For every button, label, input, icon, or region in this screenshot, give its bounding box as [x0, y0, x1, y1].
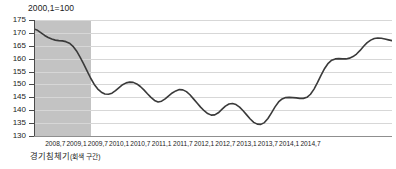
gridline — [34, 46, 392, 47]
x-axis-tick-label: 2009,7 — [88, 140, 108, 148]
plot-area — [34, 20, 392, 136]
y-tick-mark — [29, 136, 34, 137]
y-tick-mark — [29, 110, 34, 111]
y-tick-mark — [29, 72, 34, 73]
y-tick-mark — [29, 59, 34, 60]
y-tick-mark — [29, 46, 34, 47]
y-tick-mark — [29, 33, 34, 34]
gridline — [34, 72, 392, 73]
y-axis-tick-label: 160 — [2, 55, 26, 63]
x-axis-tick-label: 2013,7 — [258, 140, 278, 148]
recession-note: (회색 구간) — [70, 153, 100, 160]
x-axis-tick-label: 2009,1 — [66, 140, 86, 148]
y-axis-tick-label: 175 — [2, 16, 26, 24]
x-axis-tick-label: 2011,1 — [152, 140, 172, 148]
gridline — [34, 97, 392, 98]
y-axis-tick-label: 155 — [2, 68, 26, 76]
y-axis-tick-label: 145 — [2, 93, 26, 101]
recession-band-caption: 경기침체기(회색 구간) — [30, 151, 100, 162]
x-axis-tick-label: 2010,1 — [109, 140, 129, 148]
recession-label: 경기침체기 — [30, 151, 70, 161]
y-axis-tick-label: 150 — [2, 80, 26, 88]
gridline — [34, 123, 392, 124]
x-axis-tick-label: 2012,7 — [215, 140, 235, 148]
x-axis-tick-label: 2011,7 — [173, 140, 193, 148]
x-axis-tick-label: 2014,7 — [300, 140, 320, 148]
gridline — [34, 59, 392, 60]
x-axis-tick-label: 2014,1 — [279, 140, 299, 148]
y-tick-mark — [29, 84, 34, 85]
y-axis-tick-label: 130 — [2, 132, 26, 140]
x-axis-line — [34, 136, 392, 137]
y-axis-tick-label: 170 — [2, 29, 26, 37]
economic-index-line-chart: 2000,1=100 17517016516015515014514013513… — [0, 0, 396, 169]
y-axis-tick-label: 140 — [2, 106, 26, 114]
y-axis-tick-label: 165 — [2, 42, 26, 50]
y-tick-mark — [29, 123, 34, 124]
x-axis-tick-label: 2010,7 — [130, 140, 150, 148]
gridline — [34, 84, 392, 85]
x-axis-tick-label: 2013,1 — [237, 140, 257, 148]
y-tick-mark — [29, 20, 34, 21]
recession-band-shading — [34, 20, 91, 136]
y-axis-tick-label: 135 — [2, 119, 26, 127]
chart-title: 2000,1=100 — [28, 3, 74, 13]
gridline — [34, 20, 392, 21]
y-axis-line — [34, 20, 35, 137]
y-tick-mark — [29, 97, 34, 98]
gridline — [34, 33, 392, 34]
x-axis-tick-label: 2012,1 — [194, 140, 214, 148]
gridline — [34, 110, 392, 111]
x-axis-tick-label: 2008,7 — [45, 140, 65, 148]
